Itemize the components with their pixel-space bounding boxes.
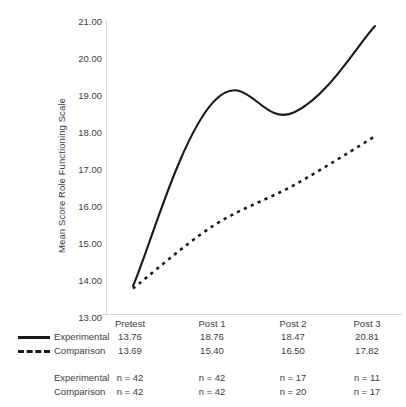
table-header-pretest: Pretest (91, 318, 169, 329)
table-header-post-3: Post 3 (328, 318, 406, 329)
y-tick-21: 21.00 (60, 17, 102, 27)
y-tick-20: 20.00 (60, 54, 102, 64)
series-line-experimental (133, 26, 375, 286)
table-cell: 13.76 (91, 331, 169, 342)
y-tick-17: 17.00 (60, 165, 102, 175)
table-header-post-2: Post 2 (254, 318, 332, 329)
table-cell: 15.40 (173, 345, 251, 356)
table-cell: 17.82 (328, 345, 406, 356)
table-cell: 13.69 (91, 345, 169, 356)
table-cell: n = 42 (173, 372, 251, 383)
y-tick-19: 19.00 (60, 91, 102, 101)
table-header-row: Pretest Post 1 Post 2 Post 3 (0, 318, 406, 331)
table-cell: 16.50 (254, 345, 332, 356)
y-tick-18: 18.00 (60, 128, 102, 138)
series-line-comparison (133, 136, 375, 288)
table-row: Comparison n = 42 n = 42 n = 20 n = 17 (0, 386, 406, 399)
table-cell: 18.76 (173, 331, 251, 342)
legend-swatch-solid-line-icon (18, 336, 50, 339)
table-cell: 20.81 (328, 331, 406, 342)
table-cell: n = 42 (173, 386, 251, 397)
table-cell: n = 42 (91, 386, 169, 397)
legend-swatch-dashed-line-icon (18, 350, 50, 353)
table-cell: n = 20 (254, 386, 332, 397)
table-header-post-1: Post 1 (173, 318, 251, 329)
table-row: Experimental n = 42 n = 42 n = 17 n = 11 (0, 372, 406, 385)
y-tick-16: 16.00 (60, 202, 102, 212)
y-tick-14: 14.00 (60, 276, 102, 286)
table-cell: n = 17 (254, 372, 332, 383)
table-cell: n = 42 (91, 372, 169, 383)
table-cell: n = 17 (328, 386, 406, 397)
chart-lines (106, 14, 402, 315)
table-cell: 18.47 (254, 331, 332, 342)
table-row: Comparison 13.69 15.40 16.50 17.82 (0, 345, 406, 358)
table-row: Experimental 13.76 18.76 18.47 20.81 (0, 331, 406, 344)
plot-area (106, 14, 402, 315)
chart-page: Mean Score Role Functioning Scale 21.00 … (0, 0, 406, 407)
data-table: Pretest Post 1 Post 2 Post 3 Experimenta… (0, 318, 406, 407)
table-cell: n = 11 (328, 372, 406, 383)
y-tick-15: 15.00 (60, 239, 102, 249)
